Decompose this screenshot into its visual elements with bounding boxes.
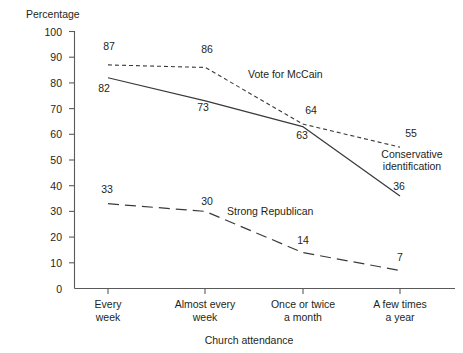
- y-tick-label: 30: [50, 205, 62, 217]
- value-label-conservative: 73: [197, 101, 209, 113]
- y-tick-label: 80: [50, 77, 62, 89]
- value-label-mccain: 86: [201, 43, 213, 55]
- value-label-mccain: 87: [103, 40, 115, 52]
- value-label-republican: 33: [101, 183, 113, 195]
- y-tick-label: 10: [50, 257, 62, 269]
- x-tick-label: Almost every: [175, 298, 236, 310]
- series-annotation-conservative-line2: identification: [383, 160, 442, 172]
- x-tick-label: week: [192, 311, 218, 323]
- x-axis-title: Church attendance: [205, 334, 294, 346]
- value-label-conservative: 36: [393, 180, 405, 192]
- series-annotation-mccain: Vote for McCain: [248, 68, 323, 80]
- value-label-conservative: 63: [296, 129, 308, 141]
- x-tick-label: a year: [385, 311, 415, 323]
- x-tick-label: A few times: [373, 298, 427, 310]
- y-tick-label: 20: [50, 231, 62, 243]
- y-tick-label: 40: [50, 180, 62, 192]
- chart-canvas: 100 90 80 70 60 50 40 30 20 10 0 Percent…: [0, 0, 463, 353]
- x-tick-label: Every: [95, 298, 123, 310]
- series-annotation-republican: Strong Republican: [227, 205, 314, 217]
- x-tick-label: a month: [284, 311, 322, 323]
- value-label-mccain: 55: [405, 127, 417, 139]
- y-tick-label: 100: [44, 26, 62, 38]
- series-annotation-conservative-line1: Conservative: [381, 148, 442, 160]
- y-tick-label: 0: [56, 283, 62, 295]
- y-tick-label: 50: [50, 154, 62, 166]
- line-chart: 100 90 80 70 60 50 40 30 20 10 0 Percent…: [0, 0, 463, 353]
- value-label-republican: 30: [201, 195, 213, 207]
- value-label-republican: 14: [297, 234, 309, 246]
- x-tick-label: Once or twice: [271, 298, 335, 310]
- y-axis-title: Percentage: [26, 8, 80, 20]
- y-tick-label: 90: [50, 51, 62, 63]
- value-label-mccain: 64: [305, 104, 317, 116]
- y-tick-label: 70: [50, 103, 62, 115]
- series-line-conservative-identification: [108, 78, 400, 196]
- y-tick-label: 60: [50, 128, 62, 140]
- x-tick-label: week: [95, 311, 121, 323]
- value-label-conservative: 82: [98, 82, 110, 94]
- value-label-republican: 7: [397, 251, 403, 263]
